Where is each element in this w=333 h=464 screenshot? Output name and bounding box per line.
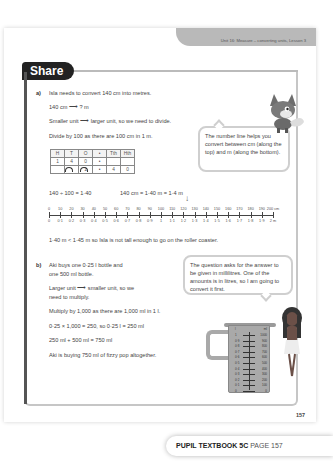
- jug-tick: [243, 385, 255, 386]
- number-line-cm-label: 60: [114, 207, 118, 211]
- table-row: 1 4 0 •: [51, 158, 135, 166]
- number-line-tick: [150, 212, 151, 218]
- jug-header-ml: ml: [264, 327, 267, 331]
- number-line-m-label: 1·2: [181, 219, 187, 223]
- number-line: 00100·1200·2300·3400·4500·5600·6700·7800…: [46, 208, 286, 228]
- number-line-m-label: 0·9: [147, 219, 153, 223]
- table-row: 1 • 4 0: [51, 166, 135, 174]
- jug-scale-row: 00: [233, 389, 267, 394]
- jug-ml-label: 0: [265, 389, 267, 393]
- number-line-m-label: 1·7: [237, 219, 243, 223]
- number-line-m-label: 1: [160, 219, 162, 223]
- jug-ml-label: 600: [262, 355, 267, 359]
- number-line-m-label: 1·8: [248, 219, 254, 223]
- jug-header-l: l: [235, 327, 236, 331]
- number-line-tick: [116, 212, 117, 218]
- unit-header-tab: Unit 16: Measure – converting units, Les…: [176, 28, 316, 46]
- jug-scale-row: 0·4400: [233, 367, 267, 372]
- number-line-cm-label: 100: [158, 207, 164, 211]
- number-line-m-label: 1·3: [192, 219, 198, 223]
- part-b-line-2: one 500 ml bottle.: [49, 271, 93, 277]
- number-line-m-label: 0·8: [136, 219, 142, 223]
- jug-scale-row: 0·5500: [233, 361, 267, 366]
- number-line-cm-label: 120: [180, 207, 186, 211]
- jug-handle: [206, 330, 230, 360]
- table-header: Hth: [121, 150, 135, 158]
- jug-litre-label: 0·3: [235, 372, 239, 376]
- jug-litre-label: 1: [235, 333, 237, 337]
- jug-litre-label: 0·2: [235, 378, 239, 382]
- part-a-conclusion: 1·40 m < 1·45 m so Isla is not tall enou…: [49, 237, 218, 243]
- jug-tick: [243, 380, 255, 381]
- jug-ml-label: 800: [262, 344, 267, 348]
- number-line-cm-label: 70: [125, 207, 129, 211]
- page-number: 157: [296, 412, 305, 418]
- number-line-m-label: 1·5: [214, 219, 220, 223]
- number-line-cm-label: 30: [80, 207, 84, 211]
- number-line-tick: [60, 212, 61, 218]
- jug-ml-label: 1000: [260, 333, 267, 337]
- number-line-m-label: 0·1: [57, 219, 63, 223]
- number-line-m-label: 1·9: [259, 219, 265, 223]
- jug-litre-label: 0·9: [235, 339, 239, 343]
- table-cell: •: [93, 158, 107, 166]
- table-cell: 0: [121, 166, 135, 174]
- number-line-tick: [105, 212, 106, 218]
- number-line-tick: [206, 212, 207, 218]
- table-cell: 4: [65, 158, 79, 166]
- number-line-m-label: 0·2: [69, 219, 75, 223]
- table-cell: 4: [107, 166, 121, 174]
- jug-tick: [243, 335, 255, 336]
- number-line-tick: [183, 212, 184, 218]
- jug-ml-label: 500: [262, 361, 267, 365]
- part-a-line-2: 140 cm ⟶ ? m: [49, 104, 89, 110]
- shift-arrow-icon: [80, 167, 88, 172]
- jug-scale-row: 11000: [233, 333, 267, 338]
- jug-scale-row: 0·8800: [233, 344, 267, 349]
- number-line-cm-label: 140: [203, 207, 209, 211]
- jug-ml-label: 100: [262, 383, 267, 387]
- part-b-line-8: Aki is buying 750 ml of fizzy pop altoge…: [49, 352, 156, 358]
- table-header: O: [79, 150, 93, 158]
- jug-tick: [243, 391, 255, 392]
- number-line-m-label: 2 m: [270, 219, 276, 223]
- jug-scale-row: 0·9900: [233, 339, 267, 344]
- number-line-tick: [71, 212, 72, 218]
- number-line-cm-label: 190: [259, 207, 265, 211]
- number-line-tick: [161, 212, 162, 218]
- fox-character-icon: [266, 92, 306, 134]
- table-cell: •: [93, 166, 107, 174]
- number-line-cm-label: 40: [92, 207, 96, 211]
- jug-tick: [243, 374, 255, 375]
- number-line-cm-label: 10: [58, 207, 62, 211]
- speech-bubble-millilitres: The question asks for the answer to be g…: [183, 255, 293, 295]
- part-b-line-3: Larger unit ⟶ smaller unit, so we: [49, 285, 134, 291]
- jug-tick: [243, 346, 255, 347]
- table-header: •: [93, 150, 107, 158]
- place-value-table: H T O • Tth Hth 1 4 0 • 1 • 4 0: [50, 149, 135, 174]
- calc-division: 140 ÷ 100 = 1·40: [49, 190, 91, 196]
- jug-litre-label: 0·6: [235, 355, 239, 359]
- table-cell: [121, 158, 135, 166]
- book-title: PUPIL TEXTBOOK 5C: [176, 442, 248, 449]
- jug-litre-label: 0·5: [235, 361, 239, 365]
- part-a-line-4: Divide by 100 as there are 100 cm in 1 m…: [49, 133, 153, 139]
- number-line-tick: [127, 212, 128, 218]
- number-line-tick: [195, 212, 196, 218]
- calc-equivalence: 140 cm = 1·40 m = 1·4 m: [120, 190, 183, 196]
- number-line-cm-label: 50: [103, 207, 107, 211]
- number-line-m-label: 0·4: [91, 219, 97, 223]
- table-header: H: [51, 150, 65, 158]
- number-line-tick: [139, 212, 140, 218]
- number-line-tick: [217, 212, 218, 218]
- number-line-cm-label: 110: [169, 207, 175, 211]
- jug-ml-label: 900: [262, 339, 267, 343]
- jug-ml-label: 300: [262, 372, 267, 376]
- part-b-line-6: 0·25 × 1,000 = 250, so 0·25 l = 250 ml: [49, 323, 144, 329]
- number-line-cm-label: 80: [136, 207, 140, 211]
- number-line-tick: [49, 212, 50, 218]
- table-header: Tth: [107, 150, 121, 158]
- footer-book-tab: PUPIL TEXTBOOK 5C PAGE 157: [166, 436, 333, 456]
- table-header-row: H T O • Tth Hth: [51, 150, 135, 158]
- table-cell: [51, 166, 65, 174]
